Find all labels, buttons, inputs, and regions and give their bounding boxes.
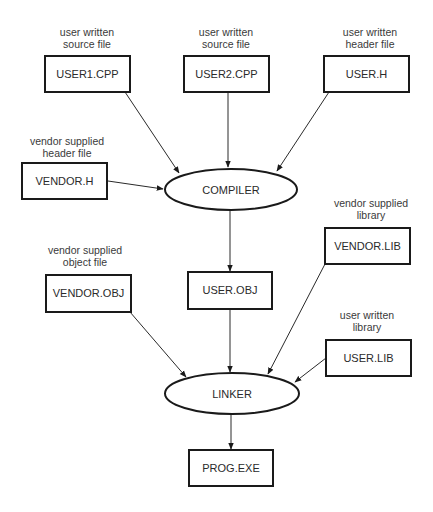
caption-userlib-line1: user written <box>340 309 394 321</box>
caption-vendorh-line1: vendor supplied <box>30 135 104 147</box>
label-linker: LINKER <box>212 388 252 400</box>
caption-vendorobj-line2: object file <box>63 256 108 268</box>
build-process-diagram: user written source file user written so… <box>0 0 433 512</box>
caption-vendorlib-line1: vendor supplied <box>334 197 408 209</box>
label-vendorobj: VENDOR.OBJ <box>53 287 125 299</box>
node-linker: LINKER <box>165 373 299 414</box>
edge-vendorlib-to-linker <box>268 264 325 374</box>
node-compiler: COMPILER <box>165 169 297 210</box>
node-user2cpp: USER2.CPP <box>184 56 269 92</box>
caption-vendorlib-line2: library <box>357 209 386 221</box>
label-user1cpp: USER1.CPP <box>56 68 118 80</box>
node-user1cpp: USER1.CPP <box>45 56 130 92</box>
edge-user1cpp-to-compiler <box>125 92 179 173</box>
label-userobj: USER.OBJ <box>202 284 257 296</box>
caption-user1cpp-line1: user written <box>60 26 114 38</box>
node-vendorobj: VENDOR.OBJ <box>46 275 131 312</box>
node-userh: USER.H <box>324 56 409 92</box>
edge-userh-to-compiler <box>277 92 329 171</box>
caption-user2cpp-line1: user written <box>199 26 253 38</box>
caption-userh-line2: header file <box>345 38 394 50</box>
caption-userh-line1: user written <box>343 26 397 38</box>
edge-vendorobj-to-linker <box>130 312 186 377</box>
label-user2cpp: USER2.CPP <box>195 68 257 80</box>
caption-userlib-line2: library <box>353 321 382 333</box>
caption-user2cpp-line2: source file <box>202 38 250 50</box>
caption-user1cpp-line2: source file <box>63 38 111 50</box>
label-userh: USER.H <box>346 68 388 80</box>
label-vendorh: VENDOR.H <box>35 175 93 187</box>
label-progexe: PROG.EXE <box>202 462 259 474</box>
node-progexe: PROG.EXE <box>189 450 273 486</box>
edge-vendorh-to-compiler <box>108 181 163 189</box>
caption-vendorobj-line1: vendor supplied <box>48 244 122 256</box>
caption-vendorh-line2: header file <box>42 147 91 159</box>
label-vendorlib: VENDOR.LIB <box>334 240 401 252</box>
node-vendorlib: VENDOR.LIB <box>325 228 410 264</box>
edge-userlib-to-linker <box>295 358 326 382</box>
node-userlib: USER.LIB <box>326 340 411 376</box>
node-vendorh: VENDOR.H <box>22 163 107 199</box>
label-userlib: USER.LIB <box>343 352 393 364</box>
label-compiler: COMPILER <box>202 184 260 196</box>
node-userobj: USER.OBJ <box>188 272 272 309</box>
